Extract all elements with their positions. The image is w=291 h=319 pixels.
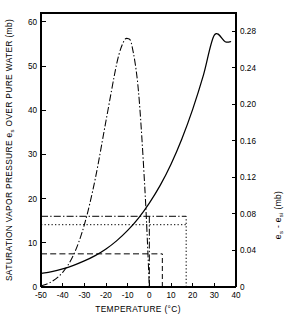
y-tick-right-label: 0.16 bbox=[240, 137, 256, 146]
y-tick-right-label: 0.24 bbox=[240, 64, 256, 73]
y-tick-right-label: 0.28 bbox=[240, 27, 256, 36]
x-tick-label: -50 bbox=[35, 291, 47, 300]
y-tick-left-label: 30 bbox=[28, 150, 38, 159]
y-tick-right-label: 0.04 bbox=[240, 246, 256, 255]
y-tick-left-label: 40 bbox=[28, 106, 38, 115]
x-tick-label: 20 bbox=[188, 291, 198, 300]
x-axis-title: TEMPERATURE (°C) bbox=[95, 304, 181, 314]
x-tick-label: 0 bbox=[147, 291, 152, 300]
y-tick-right-label: 0.20 bbox=[240, 100, 256, 109]
y-tick-left-label: 50 bbox=[28, 62, 38, 71]
saturation-vapor-pressure-chart: -50-40-30-20-10010203040 0102030405060 0… bbox=[0, 0, 291, 319]
x-tick-label: 10 bbox=[166, 291, 176, 300]
y-axis-left-title: SATURATION VAPOR PRESSURE es OVER PURE W… bbox=[4, 19, 15, 281]
x-tick-label: 40 bbox=[231, 291, 241, 300]
x-tick-label: -30 bbox=[78, 291, 90, 300]
y-tick-right-label: 0.08 bbox=[240, 210, 256, 219]
y-tick-left-label: 60 bbox=[28, 18, 38, 27]
x-tick-label: 30 bbox=[210, 291, 220, 300]
x-tick-label: -40 bbox=[57, 291, 69, 300]
x-tick-label: -10 bbox=[122, 291, 134, 300]
y-tick-left-label: 10 bbox=[28, 239, 38, 248]
y-tick-left-label: 20 bbox=[28, 195, 38, 204]
y-tick-right-label: 0.12 bbox=[240, 173, 256, 182]
chart-figure: -50-40-30-20-10010203040 0102030405060 0… bbox=[0, 0, 291, 319]
y-tick-left-label: 0 bbox=[32, 283, 37, 292]
x-tick-label: -20 bbox=[100, 291, 112, 300]
chart-background bbox=[0, 0, 291, 319]
y-tick-right-label: 0 bbox=[240, 283, 245, 292]
